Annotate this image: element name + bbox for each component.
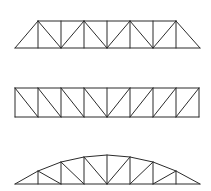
diagonal-member bbox=[38, 88, 61, 117]
diagonal-member bbox=[61, 162, 84, 184]
diagonal-member bbox=[84, 88, 107, 117]
truss-diagram bbox=[0, 0, 211, 191]
diagonal-member bbox=[107, 21, 130, 48]
diagonal-member bbox=[153, 171, 176, 184]
rectangular-pratt-truss bbox=[15, 88, 199, 117]
diagonal-member bbox=[176, 88, 199, 117]
diagonal-member bbox=[130, 88, 153, 117]
diagonal-member bbox=[38, 171, 61, 184]
end-post-right bbox=[176, 21, 200, 48]
diagonal-member bbox=[130, 162, 153, 184]
diagonal-member bbox=[61, 21, 84, 48]
diagonal-member bbox=[84, 21, 107, 48]
diagonal-member bbox=[153, 21, 176, 48]
diagonal-member bbox=[38, 21, 61, 48]
diagonal-member bbox=[130, 21, 153, 48]
diagonal-member bbox=[153, 88, 176, 117]
diagonal-member bbox=[84, 157, 107, 184]
triangular-end-truss bbox=[15, 21, 200, 48]
diagonal-member bbox=[107, 88, 130, 117]
bowstring-arch-truss bbox=[15, 155, 200, 184]
diagonal-member bbox=[107, 157, 130, 184]
diagonal-member bbox=[15, 88, 38, 117]
diagonal-member bbox=[61, 88, 84, 117]
end-post-left bbox=[15, 21, 38, 48]
